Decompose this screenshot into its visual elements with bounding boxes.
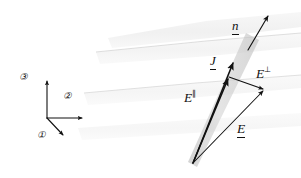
axis-label-2: ② bbox=[63, 92, 72, 102]
vector-label-E-total: E bbox=[237, 122, 245, 136]
vector-label-E-parallel-text: E bbox=[184, 90, 192, 105]
vector-label-E-perpendicular: E⊥ bbox=[256, 66, 271, 80]
parallel-symbol: ∥ bbox=[192, 89, 196, 98]
vector-label-J: J bbox=[210, 54, 216, 67]
coordinate-axes bbox=[47, 81, 82, 135]
axis-label-3: ③ bbox=[19, 73, 28, 83]
vector-label-E-total-text: E bbox=[237, 121, 245, 138]
vector-label-n: n bbox=[232, 19, 239, 32]
diagram-canvas bbox=[0, 0, 301, 178]
vector-label-E-perpendicular-text: E bbox=[256, 66, 264, 81]
vector-label-J-text: J bbox=[210, 53, 216, 70]
vector-label-E-parallel: E∥ bbox=[184, 90, 196, 104]
physics-vector-diagram: n J E∥ E⊥ E ③ ② ① bbox=[0, 0, 301, 178]
axis-1-arrow bbox=[47, 118, 63, 135]
perpendicular-symbol: ⊥ bbox=[264, 65, 271, 74]
vector-label-n-text: n bbox=[232, 18, 239, 35]
layer-lower bbox=[78, 113, 301, 140]
axis-label-1: ① bbox=[37, 131, 46, 141]
